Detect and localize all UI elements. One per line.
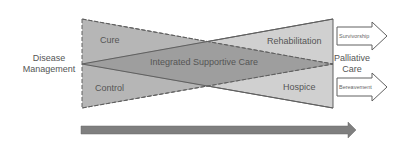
timeline-arrow-icon xyxy=(81,122,356,138)
bereavement-label: Bereavement xyxy=(339,84,372,91)
palliative-care-label-line1: Palliative xyxy=(331,53,373,64)
disease-management-label-line2: Management xyxy=(18,64,80,75)
rehabilitation-label: Rehabilitation xyxy=(267,36,322,47)
integrated-supportive-care-label: Integrated Supportive Care xyxy=(150,57,258,68)
palliative-care-label: Palliative Care xyxy=(331,53,373,75)
cure-label: Cure xyxy=(100,35,120,46)
diagram-canvas xyxy=(0,0,413,154)
disease-management-label-line1: Disease xyxy=(18,53,80,64)
survivorship-label: Survivorship xyxy=(339,33,369,40)
hospice-label: Hospice xyxy=(283,82,316,93)
palliative-care-label-line2: Care xyxy=(331,64,373,75)
disease-management-label: Disease Management xyxy=(18,53,80,75)
control-label: Control xyxy=(95,83,124,94)
